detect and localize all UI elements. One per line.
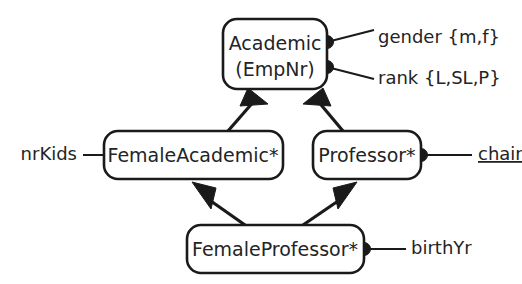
orm-subtype-diagram: Academic (EmpNr) FemaleAcademic* Profess… — [0, 0, 522, 284]
attribute-label-nrkids: nrKids — [21, 143, 77, 164]
attribute-connector-gender — [321, 30, 375, 49]
diagram-canvas: Academic (EmpNr) FemaleAcademic* Profess… — [0, 0, 522, 284]
entity-professor-label: Professor* — [318, 144, 415, 166]
subtype-link-femaleprofessor-to-femaleacademic — [192, 182, 245, 225]
entity-female-academic-label: FemaleAcademic* — [108, 144, 279, 166]
entity-academic-label-line2: (EmpNr) — [235, 58, 314, 80]
attribute-label-rank: rank {L,SL,P} — [378, 67, 501, 88]
entity-professor[interactable]: Professor* — [313, 131, 421, 179]
entity-academic-label-line1: Academic — [229, 32, 322, 54]
entity-female-professor[interactable]: FemaleProfessor* — [187, 225, 364, 273]
subtype-link-femaleprofessor-to-professor — [303, 182, 357, 225]
attribute-label-birthyr: birthYr — [411, 237, 472, 258]
attribute-label-gender: gender {m,f} — [378, 26, 500, 47]
subtype-link-femaleacademic-to-academic — [228, 88, 268, 131]
attribute-connector-chair — [415, 149, 473, 162]
entity-female-academic[interactable]: FemaleAcademic* — [104, 131, 283, 179]
entity-female-professor-label: FemaleProfessor* — [192, 238, 358, 260]
subtype-link-professor-to-academic — [303, 88, 343, 131]
attribute-connector-rank — [321, 61, 375, 80]
entity-academic[interactable]: Academic (EmpNr) — [223, 19, 327, 89]
attribute-label-chair: chair — [478, 143, 522, 164]
